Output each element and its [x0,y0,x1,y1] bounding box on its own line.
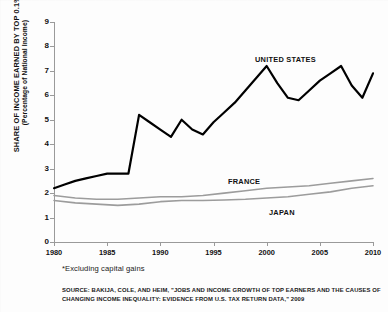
y-tick-label: 1 [36,212,49,221]
y-axis-title-main: SHARE OF INCOME EARNED BY TOP 0.1%* [12,0,21,178]
x-tick [107,242,108,246]
x-tick-label: 2000 [258,248,274,257]
x-tick [214,242,215,246]
series-label-japan: JAPAN [269,208,295,217]
series-line-united-states [54,66,373,188]
y-tick-label: 2 [36,188,49,197]
x-tick [160,242,161,246]
series-line-france [54,178,373,199]
y-tick-label: 6 [36,90,49,99]
y-tick-label: 7 [36,65,49,74]
series-label-united-states: UNITED STATES [255,55,316,64]
x-tick-label: 1980 [46,248,62,257]
chart-figure: SHARE OF INCOME EARNED BY TOP 0.1%* (Per… [0,0,388,312]
series-label-france: FRANCE [228,177,260,186]
x-tick-label: 2010 [365,248,381,257]
x-tick [373,242,374,246]
series-lines [54,22,373,242]
footnote-excluding-capital-gains: *Excluding capital gains [62,264,145,273]
y-tick-label: 0 [36,237,49,246]
x-tick-label: 1990 [152,248,168,257]
y-tick-label: 4 [36,139,49,148]
y-tick-label: 9 [36,17,49,26]
y-axis-title-sub: (Percentage of National Income) [21,0,29,178]
source-citation: SOURCE: BAKIJA, COLE, AND HEIM, "JOBS AN… [62,286,382,304]
x-tick-label: 1995 [205,248,221,257]
y-tick-label: 8 [36,41,49,50]
series-line-japan [54,186,373,206]
x-tick-label: 1985 [99,248,115,257]
x-tick [320,242,321,246]
plot-area: 0123456789 1980198519901995200020052010 … [54,22,373,242]
y-tick-label: 5 [36,114,49,123]
x-tick [54,242,55,246]
y-tick-label: 3 [36,163,49,172]
x-tick [267,242,268,246]
x-tick-label: 2005 [312,248,328,257]
y-axis-title: SHARE OF INCOME EARNED BY TOP 0.1%* (Per… [12,0,29,178]
